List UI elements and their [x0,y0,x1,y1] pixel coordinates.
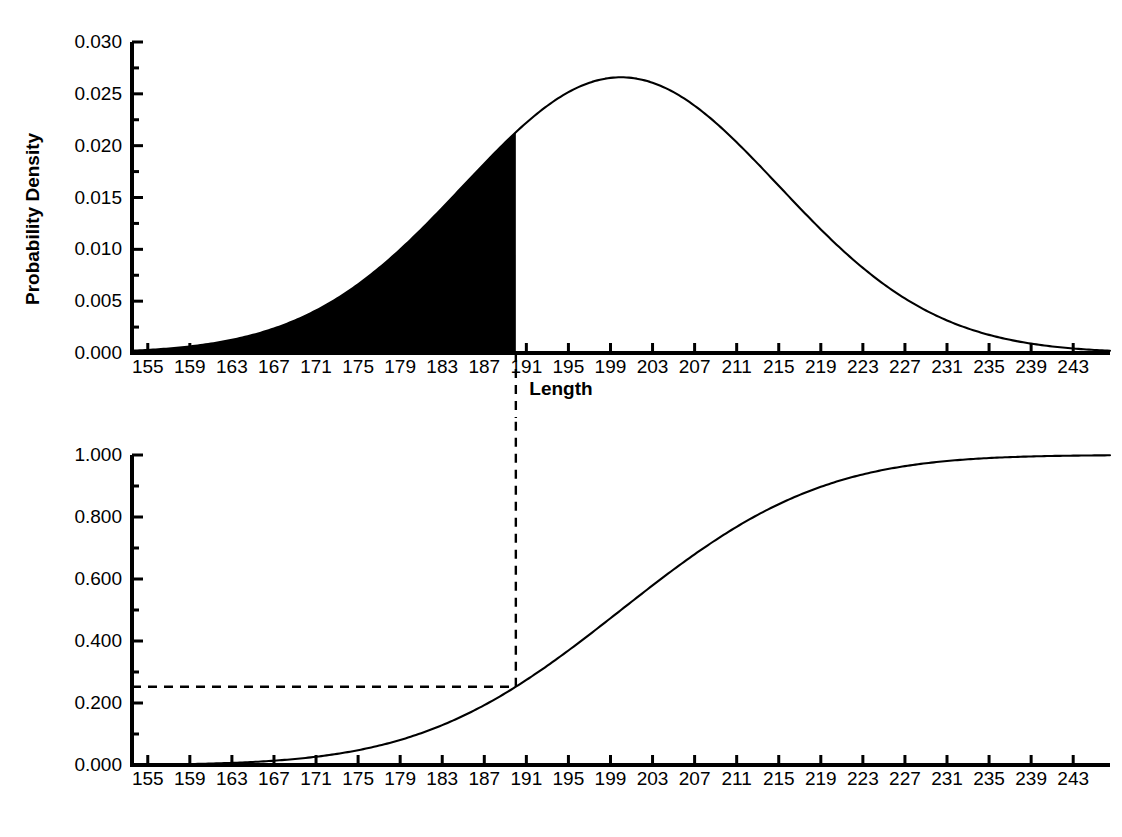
cdf-x-tick-label: 187 [468,768,500,790]
cdf-x-tick-label: 227 [889,768,921,790]
pdf-x-tick-label: 163 [216,356,248,378]
pdf-x-tick-label: 215 [763,356,795,378]
cdf-x-tick-label: 243 [1057,768,1089,790]
cdf-x-tick-label: 171 [300,768,332,790]
cdf-y-tick-label: 0.600 [18,568,122,590]
pdf-x-tick-label: 195 [553,356,585,378]
pdf-y-tick-label: 0.025 [18,83,122,105]
pdf-curve [132,77,1110,350]
cdf-y-tick-label: 1.000 [18,444,122,466]
pdf-x-tick-label: 171 [300,356,332,378]
pdf-x-tick-label: 239 [1015,356,1047,378]
pdf-shaded-area [132,132,516,353]
pdf-x-tick-label: 227 [889,356,921,378]
cdf-x-tick-label: 167 [258,768,290,790]
pdf-x-tick-label: 179 [384,356,416,378]
pdf-x-tick-label: 155 [132,356,164,378]
pdf-x-tick-label: 211 [722,356,752,378]
pdf-x-tick-label: 203 [637,356,669,378]
cdf-y-tick-label: 0.200 [18,692,122,714]
cdf-x-tick-label: 211 [722,768,752,790]
pdf-y-tick-label: 0.010 [18,238,122,260]
cdf-x-tick-label: 223 [847,768,879,790]
cdf-x-tick-label: 195 [553,768,585,790]
cdf-curve [132,455,1110,764]
pdf-y-tick-label: 0.020 [18,135,122,157]
pdf-x-tick-label: 207 [679,356,711,378]
pdf-y-tick-label: 0.030 [18,31,122,53]
cdf-x-tick-label: 239 [1015,768,1047,790]
pdf-y-tick-label: 0.015 [18,187,122,209]
pdf-x-tick-label: 191 [510,356,542,378]
cdf-x-tick-label: 183 [426,768,458,790]
cdf-x-tick-label: 175 [342,768,374,790]
pdf-x-tick-label: 235 [973,356,1005,378]
pdf-y-tick-label: 0.000 [18,342,122,364]
pdf-x-tick-label: 199 [595,356,627,378]
cdf-x-tick-label: 163 [216,768,248,790]
pdf-x-tick-label: 175 [342,356,374,378]
pdf-x-tick-label: 219 [805,356,837,378]
pdf-panel: Probability Density Length 0.0000.0050.0… [0,0,1122,418]
cdf-x-tick-label: 191 [510,768,542,790]
pdf-x-tick-label: 223 [847,356,879,378]
cdf-x-tick-label: 179 [384,768,416,790]
figure-container: Probability Density Length 0.0000.0050.0… [0,0,1122,837]
cdf-panel: Cumulative Distribution Function Length … [0,418,1122,837]
cdf-y-tick-label: 0.400 [18,630,122,652]
cdf-x-tick-label: 199 [595,768,627,790]
pdf-x-tick-label: 167 [258,356,290,378]
pdf-y-tick-label: 0.005 [18,290,122,312]
pdf-x-tick-label: 187 [468,356,500,378]
cdf-x-tick-label: 215 [763,768,795,790]
cdf-x-tick-label: 207 [679,768,711,790]
cdf-x-tick-label: 219 [805,768,837,790]
pdf-x-tick-label: 183 [426,356,458,378]
pdf-x-tick-label: 231 [931,356,963,378]
cdf-y-tick-label: 0.000 [18,754,122,776]
cdf-y-tick-label: 0.800 [18,506,122,528]
cdf-x-tick-label: 155 [132,768,164,790]
cdf-x-tick-label: 203 [637,768,669,790]
pdf-x-tick-label: 159 [174,356,206,378]
cdf-x-tick-label: 231 [931,768,963,790]
cdf-x-tick-label: 159 [174,768,206,790]
pdf-x-tick-label: 243 [1057,356,1089,378]
cdf-x-tick-label: 235 [973,768,1005,790]
